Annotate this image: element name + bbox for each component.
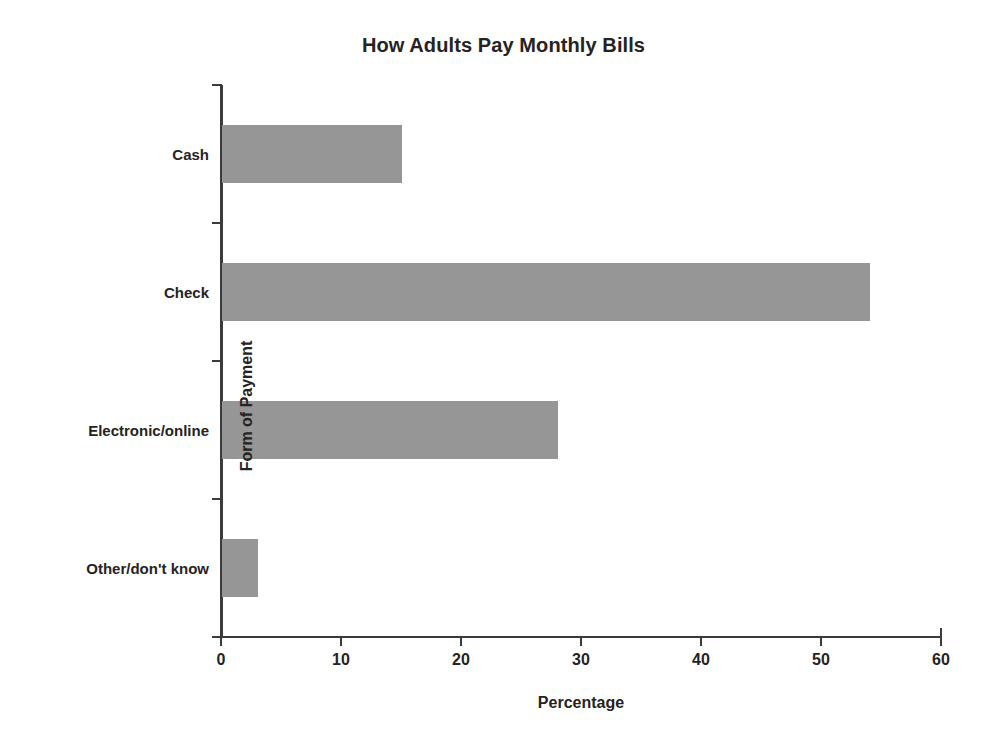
x-axis-tick: [340, 637, 342, 646]
y-axis-category-label: Check: [0, 284, 209, 301]
y-axis-category-label: Other/don't know: [0, 560, 209, 577]
x-axis-tick: [820, 637, 822, 646]
y-axis-top-cap: [212, 84, 222, 86]
bar: [222, 263, 870, 321]
x-axis-tick-label: 30: [551, 651, 611, 669]
x-axis-tick-label: 50: [791, 651, 851, 669]
y-axis-category-label: Electronic/online: [0, 422, 209, 439]
x-axis-tick: [220, 637, 222, 646]
y-axis-category-label: Cash: [0, 146, 209, 163]
x-axis-tick: [700, 637, 702, 646]
x-axis-tick: [580, 637, 582, 646]
x-axis-tick-label: 40: [671, 651, 731, 669]
x-axis-tick-label: 10: [311, 651, 371, 669]
x-axis-tick: [940, 637, 942, 646]
chart-title: How Adults Pay Monthly Bills: [0, 34, 1007, 57]
bar-chart-figure: How Adults Pay Monthly Bills 01020304050…: [0, 0, 1007, 747]
bar: [222, 125, 402, 183]
y-axis-tick: [212, 498, 222, 500]
y-axis-tick: [212, 360, 222, 362]
x-axis-tick-label: 0: [191, 651, 251, 669]
x-axis-tick: [460, 637, 462, 646]
x-axis-tick-label: 60: [911, 651, 971, 669]
plot-area: 0102030405060 CashCheckElectronic/online…: [221, 85, 941, 637]
x-axis-tick-label: 20: [431, 651, 491, 669]
bar: [222, 401, 558, 459]
x-axis-title: Percentage: [221, 694, 941, 712]
y-axis-title: Form of Payment: [238, 206, 256, 606]
y-axis-tick: [212, 222, 222, 224]
